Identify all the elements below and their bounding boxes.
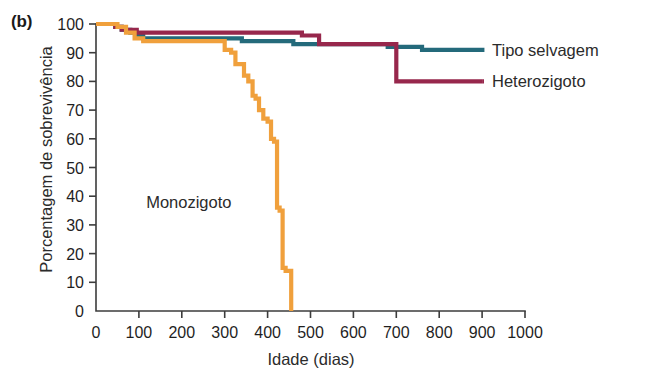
y-tick-label: 10	[66, 274, 84, 291]
legend-label-tipo-selvagem: Tipo selvagem	[492, 41, 599, 59]
x-tick-label: 100	[126, 324, 153, 341]
legend: Tipo selvagemHeterozigoto	[482, 41, 599, 91]
x-tick-label: 1000	[507, 324, 543, 341]
y-tick-label: 0	[75, 303, 84, 320]
x-tick-label: 0	[92, 324, 101, 341]
plot-area: 0102030405060708090100010020030040050060…	[0, 0, 646, 390]
y-tick-label: 30	[66, 217, 84, 234]
curve-heterozigoto	[96, 24, 482, 81]
y-tick-label: 50	[66, 160, 84, 177]
axes	[89, 24, 525, 318]
axis-lines	[96, 24, 525, 311]
y-tick-label: 80	[66, 73, 84, 90]
data-curves	[96, 24, 484, 311]
legend-label-heterozigoto: Heterozigoto	[492, 72, 586, 90]
tick-labels: 0102030405060708090100010020030040050060…	[57, 16, 543, 341]
annotations: Monozigoto	[146, 193, 231, 211]
curve-monozigoto	[96, 24, 291, 311]
curve-tipo-selvagem	[96, 24, 484, 50]
x-tick-label: 800	[426, 324, 453, 341]
x-tick-label: 700	[383, 324, 410, 341]
x-tick-label: 300	[211, 324, 238, 341]
x-tick-label: 200	[168, 324, 195, 341]
x-tick-label: 600	[340, 324, 367, 341]
y-tick-label: 90	[66, 45, 84, 62]
x-tick-label: 400	[254, 324, 281, 341]
y-tick-label: 60	[66, 131, 84, 148]
y-tick-label: 100	[57, 16, 84, 33]
survival-curve-figure: (b) Porcentagem de sobrevivência Idade (…	[0, 0, 646, 390]
x-tick-label: 500	[297, 324, 324, 341]
y-tick-label: 70	[66, 102, 84, 119]
annotation-label-monozigoto: Monozigoto	[146, 193, 231, 211]
y-tick-label: 20	[66, 246, 84, 263]
x-tick-label: 900	[469, 324, 496, 341]
y-tick-label: 40	[66, 188, 84, 205]
